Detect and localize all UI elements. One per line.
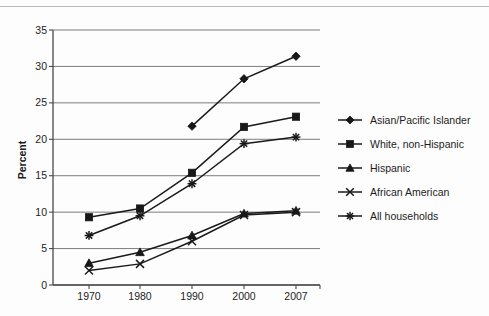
legend-label-0: Asian/Pacific Islander [370, 114, 471, 126]
data-point-4-2 [188, 179, 197, 188]
x-tick-label-1970: 1970 [77, 290, 101, 302]
legend-marker-square-icon [338, 141, 362, 148]
chart-page: 35 30 25 20 15 10 5 0 1970 1980 1990 200… [0, 0, 489, 316]
y-tick-label-30: 30 [35, 60, 47, 72]
data-point-0-2 [292, 52, 300, 60]
legend-marker-glyph-0 [346, 116, 354, 124]
x-tick-label-2007: 2007 [284, 290, 308, 302]
data-point-1-2 [188, 169, 195, 176]
data-point-1-1 [136, 205, 143, 212]
y-tick-label-20: 20 [35, 133, 47, 145]
series-markers [85, 52, 301, 274]
legend-marker-glyph-4 [346, 212, 354, 220]
legend-item-hispanic[interactable]: Hispanic [338, 162, 410, 174]
y-tick-label-15: 15 [35, 169, 47, 181]
y-tick-label-0: 0 [41, 279, 47, 291]
data-point-1-0 [85, 214, 92, 221]
legend-item-asian-pacific-islander[interactable]: Asian/Pacific Islander [338, 114, 471, 126]
legend-marker-triangle-icon [338, 164, 362, 171]
data-point-4-3 [240, 139, 249, 148]
y-tick-labels: 35 30 25 20 15 10 5 0 [35, 24, 47, 291]
data-point-4-4 [292, 133, 301, 142]
legend-label-2: Hispanic [370, 162, 410, 174]
gridlines [53, 30, 320, 285]
series-line-1 [89, 117, 296, 218]
legend-item-all-households[interactable]: All households [338, 210, 438, 222]
legend-marker-diamond-icon [338, 116, 362, 124]
y-tick-label-10: 10 [35, 206, 47, 218]
x-tick-label-2000: 2000 [232, 290, 256, 302]
data-point-4-0 [85, 231, 94, 240]
legend-label-3: African American [370, 186, 450, 198]
x-tick-label-1980: 1980 [128, 290, 152, 302]
legend: Asian/Pacific Islander White, non-Hispan… [338, 114, 471, 222]
x-tick-labels: 1970 1980 1990 2000 2007 [77, 290, 308, 302]
y-tick-label-25: 25 [35, 96, 47, 108]
legend-item-white-non-hispanic[interactable]: White, non-Hispanic [338, 138, 464, 150]
line-chart: 35 30 25 20 15 10 5 0 1970 1980 1990 200… [0, 0, 489, 316]
data-point-1-3 [240, 123, 247, 130]
data-point-4-1 [136, 211, 145, 220]
y-tick-label-35: 35 [35, 24, 47, 36]
legend-marker-glyph-1 [347, 141, 354, 148]
legend-marker-x-icon [338, 188, 362, 196]
legend-item-african-american[interactable]: African American [338, 186, 450, 198]
y-tick-label-5: 5 [41, 242, 47, 254]
x-tick-label-1990: 1990 [180, 290, 204, 302]
legend-marker-asterisk-icon [338, 212, 362, 220]
legend-label-1: White, non-Hispanic [370, 138, 464, 150]
chart-svg: 35 30 25 20 15 10 5 0 1970 1980 1990 200… [0, 0, 489, 316]
legend-label-4: All households [370, 210, 438, 222]
y-axis-title: Percent [16, 140, 28, 179]
data-point-1-4 [292, 113, 299, 120]
